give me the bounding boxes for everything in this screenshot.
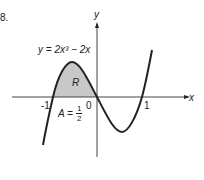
y-axis-arrow-icon xyxy=(95,22,99,28)
area-annotation: A = 1 2 xyxy=(58,104,82,123)
area-numerator: 1 xyxy=(76,104,82,114)
region-label: R xyxy=(72,77,79,88)
area-prefix: A = xyxy=(58,108,73,119)
area-fraction: 1 2 xyxy=(76,104,82,123)
tick-label-neg1: -1 xyxy=(41,100,50,111)
equation-label: y = 2x³ − 2x xyxy=(38,44,90,55)
tick-label-0: 0 xyxy=(86,100,92,111)
tick-label-1: 1 xyxy=(144,100,150,111)
cubic-graph xyxy=(0,0,204,180)
y-axis-label: y xyxy=(94,9,99,20)
x-axis-label: x xyxy=(189,92,194,103)
area-denominator: 2 xyxy=(77,114,81,123)
